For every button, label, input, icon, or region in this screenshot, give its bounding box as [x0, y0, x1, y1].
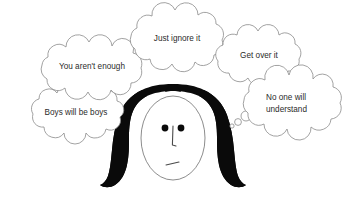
thought-bubble-you-arent-enough: You aren't enough [41, 35, 142, 100]
illustration-canvas: Boys will be boys You aren't enough Just… [0, 0, 347, 198]
thought-bubble-just-ignore-it: Just ignore it [130, 3, 223, 72]
right-eye [178, 125, 185, 132]
character-figure [100, 84, 246, 187]
bubble-label-no-one-will-understand-line1: No one will [266, 93, 306, 102]
thought-tail-circle-small [230, 124, 234, 128]
left-eye [162, 125, 169, 132]
illustration-scene: Boys will be boys You aren't enough Just… [0, 0, 347, 198]
bubble-label-boys-will-be-boys: Boys will be boys [45, 108, 108, 117]
bubble-label-just-ignore-it: Just ignore it [154, 34, 201, 43]
bubble-label-get-over-it: Get over it [240, 51, 278, 60]
thought-tail-circle-medium [235, 119, 242, 126]
bubble-label-you-arent-enough: You aren't enough [59, 62, 125, 71]
hair-right-sweep [199, 90, 246, 187]
bubble-label-no-one-will-understand-line2: understand [266, 105, 307, 114]
